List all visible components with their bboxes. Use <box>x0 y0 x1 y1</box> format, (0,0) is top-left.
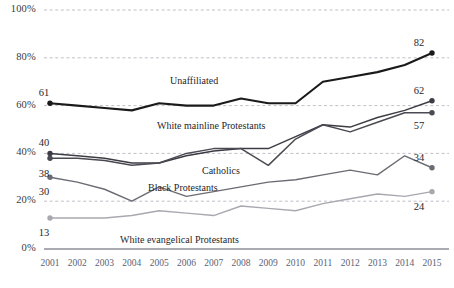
x-tick-label-2008: 2008 <box>228 258 254 268</box>
x-tick-label-2004: 2004 <box>119 258 145 268</box>
marker-start-white-evangelical-protestants <box>47 215 52 220</box>
x-tick-label-2006: 2006 <box>173 258 199 268</box>
chart-container: 100%80%60%40%20%0% 200120022003200420052… <box>0 0 454 288</box>
marker-end-black-protestants <box>429 165 434 170</box>
x-tick-label-2012: 2012 <box>337 258 363 268</box>
series-label-white-mainline-protestants: White mainline Protestants <box>157 120 265 131</box>
x-tick-label-2009: 2009 <box>255 258 281 268</box>
series-label-unaffiliated: Unaffiliated <box>170 75 218 86</box>
series-label-black-protestants: Black Protestants <box>148 182 218 193</box>
marker-start-unaffiliated <box>47 101 52 106</box>
series-lines-group <box>50 53 432 218</box>
y-tick-label-100: 100% <box>2 3 36 14</box>
x-tick-label-2014: 2014 <box>392 258 418 268</box>
end-value-white-mainline-protestants: 62 <box>408 85 430 96</box>
x-tick-label-2011: 2011 <box>310 258 336 268</box>
start-value-white-mainline-protestants: 40 <box>33 137 55 148</box>
x-tick-label-2007: 2007 <box>201 258 227 268</box>
endpoint-markers-group <box>47 50 434 220</box>
start-value-white-evangelical-protestants: 13 <box>33 227 55 238</box>
y-tick-label-80: 80% <box>2 51 36 62</box>
marker-end-white-evangelical-protestants <box>429 189 434 194</box>
y-tick-label-40: 40% <box>2 146 36 157</box>
end-value-white-evangelical-protestants: 24 <box>408 201 430 212</box>
series-line-white-evangelical-protestants <box>50 192 432 218</box>
x-tick-label-2013: 2013 <box>364 258 390 268</box>
y-tick-label-60: 60% <box>2 99 36 110</box>
end-value-catholics: 57 <box>408 120 430 131</box>
x-tick-label-2010: 2010 <box>283 258 309 268</box>
start-value-black-protestants: 30 <box>33 186 55 197</box>
marker-end-catholics <box>429 110 434 115</box>
x-tick-label-2015: 2015 <box>419 258 445 268</box>
x-tick-label-2002: 2002 <box>64 258 90 268</box>
end-value-black-protestants: 34 <box>408 152 430 163</box>
marker-end-white-mainline-protestants <box>429 98 434 103</box>
x-tick-label-2005: 2005 <box>146 258 172 268</box>
y-tick-label-20: 20% <box>2 194 36 205</box>
marker-start-white-mainline-protestants <box>47 151 52 156</box>
series-label-catholics: Catholics <box>202 165 240 176</box>
y-tick-label-0: 0% <box>2 242 36 253</box>
series-label-white-evangelical-protestants: White evangelical Protestants <box>120 234 239 245</box>
start-value-catholics: 38 <box>33 168 55 179</box>
marker-start-catholics <box>47 155 52 160</box>
end-value-unaffiliated: 82 <box>408 37 430 48</box>
x-tick-label-2003: 2003 <box>92 258 118 268</box>
x-tick-label-2001: 2001 <box>37 258 63 268</box>
start-value-unaffiliated: 61 <box>33 87 55 98</box>
marker-end-unaffiliated <box>429 50 434 55</box>
series-line-unaffiliated <box>50 53 432 110</box>
